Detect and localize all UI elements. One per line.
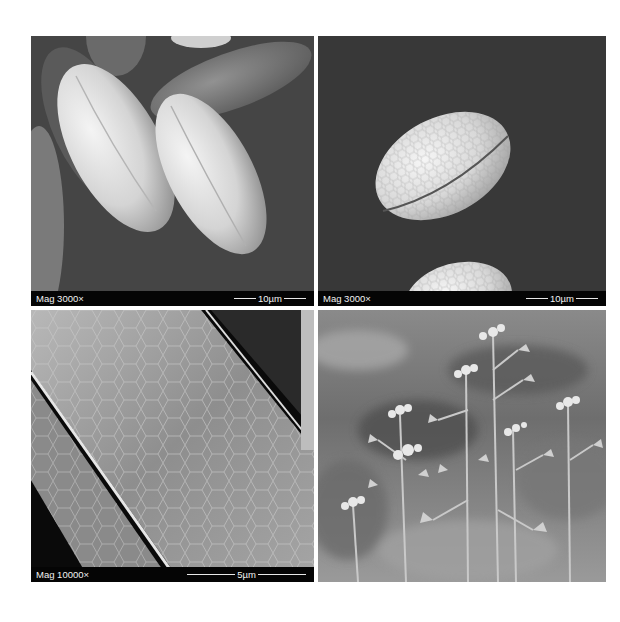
scale-bar: 5µm: [187, 567, 306, 582]
scale-line-left: [526, 298, 548, 299]
single-pollen-grain-image: [318, 36, 606, 306]
magnification-label: Mag 3000×: [36, 291, 84, 306]
pollen-surface-closeup-image: [31, 310, 314, 582]
scale-line-left: [234, 298, 256, 299]
scale-bar-label: 10µm: [548, 291, 576, 306]
magnification-label: Mag 3000×: [323, 291, 371, 306]
plant-photo-panel: [318, 310, 606, 582]
label-bar: Mag 3000× 10µm: [31, 291, 314, 306]
scale-bar: 10µm: [234, 291, 306, 306]
label-bar: Mag 10000× 5µm: [31, 567, 314, 582]
scale-line-right: [284, 298, 306, 299]
shepherds-purse-photo: [318, 310, 606, 582]
sem-panel-top-right: Mag 3000× 10µm: [318, 36, 606, 306]
scale-line-right: [576, 298, 598, 299]
scale-bar-label: 10µm: [256, 291, 284, 306]
label-bar: Mag 3000× 10µm: [318, 291, 606, 306]
sem-panel-bottom-left: Mag 10000× 5µm: [31, 310, 314, 582]
sem-panel-top-left: Mag 3000× 10µm: [31, 36, 314, 306]
scale-bar-label: 5µm: [235, 567, 258, 582]
scale-line-left: [187, 574, 235, 575]
magnification-label: Mag 10000×: [36, 567, 89, 582]
scale-bar: 10µm: [526, 291, 598, 306]
scale-line-right: [258, 574, 306, 575]
pollen-grains-image: [31, 36, 314, 306]
